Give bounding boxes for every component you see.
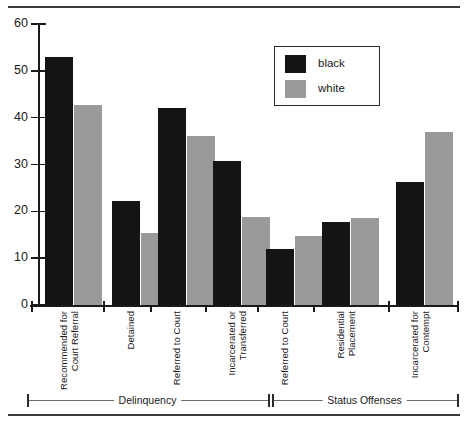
group-label-0: Delinquency (114, 393, 182, 407)
bar-black-0 (45, 57, 73, 305)
category-label-0: Recommended forCourt Referral (59, 311, 80, 390)
category-label-1: Detained (126, 311, 137, 349)
bar-white-4 (295, 236, 323, 305)
bar-white-5 (351, 218, 379, 305)
category-label-2: Referred to Court (172, 311, 183, 385)
bar-black-2 (158, 108, 186, 305)
legend-label-white: white (318, 83, 345, 95)
category-label-5: ResidentialPlacement (336, 311, 357, 358)
group-end-0-0 (27, 394, 29, 407)
legend-item-white: white (285, 80, 345, 98)
legend: black white (274, 46, 380, 106)
bar-black-5 (322, 222, 350, 305)
legend-item-black: black (285, 55, 345, 73)
legend-swatch-white-icon (285, 80, 306, 98)
bar-black-4 (266, 249, 294, 305)
group-label-1: Status Offenses (322, 393, 407, 407)
chart-figure: 6050403020100 Recommended forCourt Refer… (0, 0, 467, 422)
group-end-1-0 (272, 394, 274, 407)
x-axis-line (30, 305, 458, 307)
bar-black-3 (213, 161, 241, 305)
plot-area: 6050403020100 Recommended forCourt Refer… (0, 0, 467, 422)
bar-black-6 (396, 182, 424, 305)
bar-black-1 (112, 201, 140, 305)
bars-layer (0, 0, 467, 305)
bar-white-6 (425, 132, 453, 305)
category-label-6: Incarcerated forContempt (410, 311, 431, 378)
bar-white-2 (187, 136, 215, 305)
legend-label-black: black (318, 58, 345, 70)
category-label-3: Incarcerated orTransferred (227, 311, 248, 376)
category-label-4: Referred to Court (280, 311, 291, 385)
bar-white-0 (74, 105, 102, 305)
legend-swatch-black-icon (285, 55, 306, 73)
group-end-0-1 (268, 394, 270, 407)
group-end-1-1 (457, 394, 459, 407)
